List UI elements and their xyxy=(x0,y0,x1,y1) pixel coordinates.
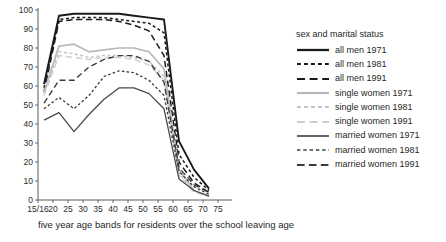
legend-line-swatch xyxy=(296,131,330,141)
y-tick-label: 100 xyxy=(19,5,33,15)
legend-line-swatch xyxy=(296,145,330,155)
x-tick-label: 25 xyxy=(63,204,73,214)
x-tick-label: 15/16 xyxy=(27,204,49,214)
chart-container: 0102030405060708090100 15/16202530354045… xyxy=(0,0,446,242)
legend-item[interactable]: all men 1981 xyxy=(296,57,446,71)
x-tick-label: 50 xyxy=(138,204,148,214)
y-tick-label: 60 xyxy=(24,81,34,91)
legend-line-swatch xyxy=(296,117,330,127)
legend-item[interactable]: single women 1981 xyxy=(296,100,446,114)
x-tick-label: 60 xyxy=(168,204,178,214)
legend-item[interactable]: all men 1991 xyxy=(296,72,446,86)
legend-item-label: all men 1991 xyxy=(335,74,387,83)
legend-line-swatch xyxy=(296,88,330,98)
legend-line-swatch xyxy=(296,74,330,84)
legend-item-label: single women 1981 xyxy=(335,103,413,112)
chart-svg: 0102030405060708090100 15/16202530354045… xyxy=(0,0,250,215)
x-tick-label: 40 xyxy=(108,204,118,214)
y-tick-label: 30 xyxy=(24,138,34,148)
x-tick-label: 70 xyxy=(198,204,208,214)
legend-item[interactable]: single women 1971 xyxy=(296,86,446,100)
data-series-group xyxy=(44,14,209,196)
legend-item[interactable]: married women 1981 xyxy=(296,143,446,157)
legend-item[interactable]: married women 1971 xyxy=(296,129,446,143)
legend-line-swatch xyxy=(296,160,330,170)
plot-area: 0102030405060708090100 15/16202530354045… xyxy=(0,0,250,215)
legend-item-label: married women 1981 xyxy=(335,146,420,155)
legend-item-label: single women 1971 xyxy=(335,89,413,98)
legend-item[interactable]: married women 1991 xyxy=(296,157,446,171)
x-tick-label: 30 xyxy=(78,204,88,214)
y-tick-label: 50 xyxy=(24,100,34,110)
legend-item-label: single women 1991 xyxy=(335,117,413,126)
x-tick-label: 20 xyxy=(48,204,58,214)
legend-item-label: married women 1991 xyxy=(335,160,420,169)
legend-item[interactable]: all men 1971 xyxy=(296,43,446,57)
legend-item[interactable]: single women 1991 xyxy=(296,114,446,128)
legend-line-swatch xyxy=(296,45,330,55)
legend: sex and marital status all men 1971all m… xyxy=(296,29,446,172)
x-axis: 15/16202530354045505560657075 xyxy=(27,200,232,214)
legend-items: all men 1971all men 1981all men 1991sing… xyxy=(296,43,446,172)
x-axis-caption: five year age bands for residents over t… xyxy=(38,219,294,230)
x-tick-label: 35 xyxy=(93,204,103,214)
x-tick-label: 65 xyxy=(183,204,193,214)
legend-item-label: married women 1971 xyxy=(335,131,420,140)
x-tick-label: 45 xyxy=(123,204,133,214)
x-tick-label: 55 xyxy=(153,204,163,214)
x-tick-label: 75 xyxy=(213,204,223,214)
y-tick-label: 10 xyxy=(24,176,34,186)
y-tick-label: 70 xyxy=(24,62,34,72)
legend-item-label: all men 1971 xyxy=(335,46,387,55)
legend-item-label: all men 1981 xyxy=(335,60,387,69)
y-tick-label: 40 xyxy=(24,119,34,129)
y-tick-label: 90 xyxy=(24,24,34,34)
legend-title: sex and marital status xyxy=(296,29,446,39)
legend-line-swatch xyxy=(296,59,330,69)
y-axis: 0102030405060708090100 xyxy=(19,5,38,205)
y-tick-label: 20 xyxy=(24,157,34,167)
y-tick-label: 80 xyxy=(24,43,34,53)
legend-line-swatch xyxy=(296,102,330,112)
